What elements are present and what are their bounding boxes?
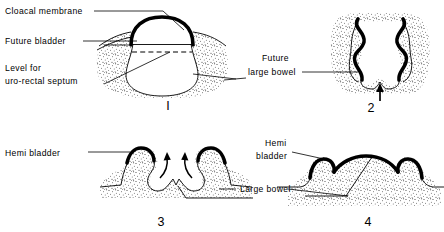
label-level-for-line2: uro-rectal septum xyxy=(5,76,78,86)
label-cloacal-membrane: Cloacal membrane xyxy=(5,6,83,16)
label-future-large-bowel-line2: large bowel xyxy=(248,67,296,77)
panel-2-group xyxy=(224,13,430,101)
label-future-bladder: Future bladder xyxy=(5,36,66,46)
label-hemi-bladder-right-line2: bladder xyxy=(256,151,287,161)
figure-canvas: Cloacal membrane Future bladder Level fo… xyxy=(0,0,444,232)
panel-3-arrow-right-head xyxy=(181,152,188,161)
panel-1-group xyxy=(83,11,236,98)
label-hemi-bladder-left: Hemi bladder xyxy=(5,148,60,158)
panel-3-group xyxy=(88,148,253,198)
panel-number-3: 3 xyxy=(158,215,165,229)
label-level-for-line1: Level for xyxy=(5,63,41,73)
panel-number-2: 2 xyxy=(368,101,375,115)
anatomy-figure: Cloacal membrane Future bladder Level fo… xyxy=(0,0,444,232)
label-large-bowel: Large bowel xyxy=(240,184,291,194)
panel-number-1: I xyxy=(166,99,169,113)
panel-3-tissue xyxy=(100,148,252,198)
panel-number-4: 4 xyxy=(365,215,372,229)
label-future-large-bowel-line1: Future xyxy=(262,53,289,63)
panel-2-lumen xyxy=(357,22,403,85)
label-hemi-bladder-right-line1: Hemi xyxy=(265,138,286,148)
leader-hemi-bladder-right xyxy=(292,152,324,159)
panel-3-arrow-left-head xyxy=(164,152,171,161)
